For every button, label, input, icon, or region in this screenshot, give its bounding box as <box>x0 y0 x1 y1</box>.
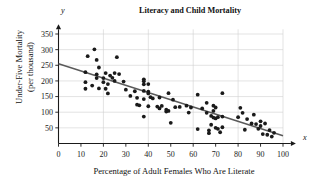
x-axis-label: Percentage of Adult Females Who Are Lite… <box>44 166 304 176</box>
svg-text:70: 70 <box>212 150 220 159</box>
x-axis-symbol: x <box>303 133 307 142</box>
svg-text:150: 150 <box>41 92 53 101</box>
svg-text:0: 0 <box>57 150 61 159</box>
svg-text:10: 10 <box>77 150 85 159</box>
svg-text:250: 250 <box>41 61 53 70</box>
y-axis-label-line1: Under-Five Mortality <box>14 17 24 117</box>
regression-line <box>59 64 284 136</box>
scatter-plot-figure: 0102030405060708090100501001502002503003… <box>0 0 329 188</box>
svg-text:200: 200 <box>41 77 53 86</box>
axis-tick-labels: 0102030405060708090100501001502002503003… <box>41 30 289 159</box>
svg-text:90: 90 <box>257 150 265 159</box>
svg-text:350: 350 <box>41 30 53 39</box>
svg-text:300: 300 <box>41 46 53 55</box>
svg-text:50: 50 <box>167 150 175 159</box>
y-axis-label-line2: (per thousand) <box>25 17 35 117</box>
svg-text:60: 60 <box>189 150 197 159</box>
svg-text:100: 100 <box>277 150 289 159</box>
chart-canvas: 0102030405060708090100501001502002503003… <box>0 0 329 188</box>
svg-text:50: 50 <box>45 124 53 133</box>
svg-text:30: 30 <box>122 150 130 159</box>
y-axis-symbol: y <box>61 6 65 15</box>
svg-text:80: 80 <box>234 150 242 159</box>
svg-text:20: 20 <box>99 150 107 159</box>
svg-text:40: 40 <box>144 150 152 159</box>
chart-title: Literacy and Child Mortality <box>100 6 280 15</box>
tick-marks <box>55 34 283 147</box>
svg-text:100: 100 <box>41 108 53 117</box>
